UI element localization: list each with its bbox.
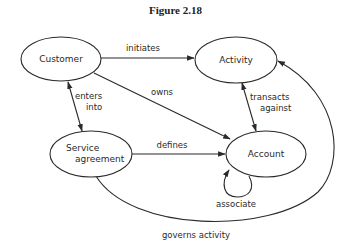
edge-label-into: into (86, 102, 102, 112)
entity-relationship-diagram: initiates owns enters into transacts aga… (0, 0, 351, 247)
edge-label-transacts: transacts (250, 92, 290, 102)
node-label-service: Service (66, 143, 100, 153)
node-customer: Customer (21, 37, 101, 81)
node-service-agreement: Service agreement (50, 131, 132, 177)
edge-label-enters: enters (75, 91, 103, 101)
edge-transacts-against: transacts against (242, 83, 292, 131)
edge-owns: owns (94, 73, 230, 139)
node-label-customer: Customer (39, 54, 83, 64)
node-account: Account (226, 131, 306, 177)
node-label-agreement: agreement (75, 154, 125, 164)
edge-defines: defines (132, 140, 225, 154)
edge-label-governs-activity: governs activity (162, 230, 230, 240)
node-label-activity: Activity (219, 55, 253, 65)
edge-label-associate: associate (216, 199, 256, 209)
edge-associate-self-loop: associate (216, 170, 256, 209)
edge-initiates: initiates (101, 43, 194, 58)
node-label-account: Account (248, 149, 285, 159)
edge-label-initiates: initiates (126, 43, 161, 53)
edge-enters-into: enters into (68, 82, 103, 131)
node-activity: Activity (195, 37, 277, 83)
edge-label-against: against (260, 103, 292, 113)
edge-label-defines: defines (156, 140, 188, 150)
edge-label-owns: owns (151, 87, 174, 97)
